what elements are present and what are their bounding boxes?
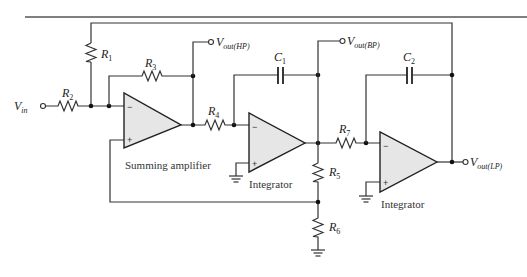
junction-summing-out xyxy=(191,123,196,128)
state-variable-filter-schematic: R1 Vin R2 R3 Vout(HP) − + Summing amplif… xyxy=(0,0,527,277)
vout-hp-terminal[interactable] xyxy=(209,40,214,45)
integrator2-inv-sign: − xyxy=(383,141,388,151)
integrator2-noninv-sign: + xyxy=(383,178,388,188)
wire-c2-left xyxy=(366,75,407,143)
label-summing-amplifier: Summing amplifier xyxy=(125,159,211,171)
label-r4: R4 xyxy=(207,104,219,120)
label-r2: R2 xyxy=(61,86,73,102)
label-c2: C2 xyxy=(403,50,415,66)
junction-r1-r2 xyxy=(89,104,94,109)
resistor-r2-wire xyxy=(46,101,125,111)
vout-bp-terminal[interactable] xyxy=(340,39,345,44)
label-r1: R1 xyxy=(100,47,112,63)
label-vout-hp: Vout(HP) xyxy=(216,35,250,51)
label-vout-bp: Vout(BP) xyxy=(347,34,380,50)
summing-inv-sign: − xyxy=(127,102,132,112)
summing-amplifier xyxy=(124,93,181,148)
integrator-2 xyxy=(380,132,437,192)
label-r5: R5 xyxy=(328,165,340,181)
resistor-r5-r6-wire xyxy=(313,75,323,250)
label-r6: R6 xyxy=(328,220,340,236)
junction-r5-r6 xyxy=(316,200,321,205)
integrator-1 xyxy=(249,113,305,172)
junction-integrator2-out xyxy=(450,160,455,165)
vout-lp-terminal[interactable] xyxy=(463,160,468,165)
label-integrator-2: Integrator xyxy=(381,198,425,210)
integrator1-noninv-sign: + xyxy=(252,159,257,169)
label-vin: Vin xyxy=(14,99,28,115)
resistor-r1 xyxy=(86,43,96,62)
summing-noninv-sign: + xyxy=(127,135,132,145)
label-vout-lp: Vout(LP) xyxy=(470,155,503,171)
label-integrator-1: Integrator xyxy=(249,178,293,190)
wire-vout-hp xyxy=(193,42,208,76)
integrator1-inv-sign: − xyxy=(252,122,257,132)
wire-integrator2-ground xyxy=(366,182,380,196)
wire-integrator1-ground xyxy=(236,163,249,176)
junction-lp-feedback xyxy=(450,73,455,78)
label-r3: R3 xyxy=(144,56,156,72)
wire-vout-bp xyxy=(318,41,340,75)
label-c1: C1 xyxy=(274,50,286,66)
label-r7: R7 xyxy=(338,122,350,138)
vin-terminal[interactable] xyxy=(41,104,46,109)
